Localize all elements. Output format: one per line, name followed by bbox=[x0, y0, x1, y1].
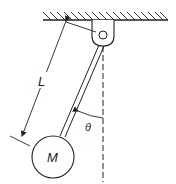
mass-label: M bbox=[47, 150, 58, 165]
pivot-pin bbox=[99, 31, 107, 39]
pendulum-diagram: M L θ bbox=[0, 0, 176, 184]
ceiling bbox=[43, 12, 168, 20]
pendulum-rod bbox=[60, 45, 104, 137]
length-tick bbox=[10, 136, 30, 146]
angle-label: θ bbox=[85, 121, 91, 133]
length-label: L bbox=[38, 74, 45, 89]
angle-arc bbox=[78, 111, 103, 118]
